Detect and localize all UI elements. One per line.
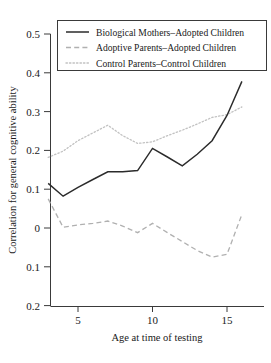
legend-label-2: Control Parents–Control Children (96, 58, 226, 69)
x-tick-label-0: 5 (75, 314, 81, 326)
y-tick-label-4: 0.1 (26, 183, 40, 195)
chart-legend: Biological Mothers–Adopted Children Adop… (58, 21, 267, 71)
y-tick-label-6: 0.1 (26, 261, 40, 273)
y-tick-label-7: 0.2 (26, 300, 40, 312)
x-tick-label-2: 15 (222, 314, 234, 326)
line-chart-svg: 0.5 0.4 0.3 0.2 0.1 0 0.1 0.2 5 10 15 Ag… (0, 0, 271, 363)
series-line-control-parents-control-children (48, 107, 242, 157)
y-tick-label-5: 0 (35, 222, 41, 234)
series-line-adoptive-parents-adopted-children (48, 199, 242, 257)
x-axis-title: Age at time of testing (112, 332, 204, 343)
y-tick-label-0: 0.5 (26, 28, 40, 40)
legend-label-1: Adoptive Parents–Adopted Children (96, 42, 236, 53)
x-axis-ticks (78, 307, 227, 313)
chart-figure: 0.5 0.4 0.3 0.2 0.1 0 0.1 0.2 5 10 15 Ag… (0, 0, 271, 363)
series-line-biological-mothers-adopted-children (48, 81, 242, 196)
y-axis-title: Correlation for general cognitive abilit… (7, 86, 18, 254)
legend-label-0: Biological Mothers–Adopted Children (96, 27, 244, 38)
y-tick-label-3: 0.2 (26, 144, 40, 156)
x-tick-label-1: 10 (147, 314, 159, 326)
y-tick-label-1: 0.4 (26, 67, 40, 79)
y-axis-ticks (44, 34, 51, 306)
y-tick-label-2: 0.3 (26, 106, 40, 118)
